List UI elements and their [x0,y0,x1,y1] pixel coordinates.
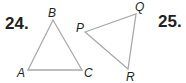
vertex-label-b: B [48,6,56,20]
vertex-label-q: Q [135,0,144,14]
vertex-label-a: A [17,66,25,80]
triangle-abc [28,20,82,70]
vertex-label-r: R [126,70,135,83]
problem-number-24: 24. [5,14,29,34]
vertex-label-c: C [84,66,93,80]
vertex-label-p: P [76,21,84,35]
problem-number-25: 25. [158,12,182,32]
triangle-pqr [85,14,136,69]
